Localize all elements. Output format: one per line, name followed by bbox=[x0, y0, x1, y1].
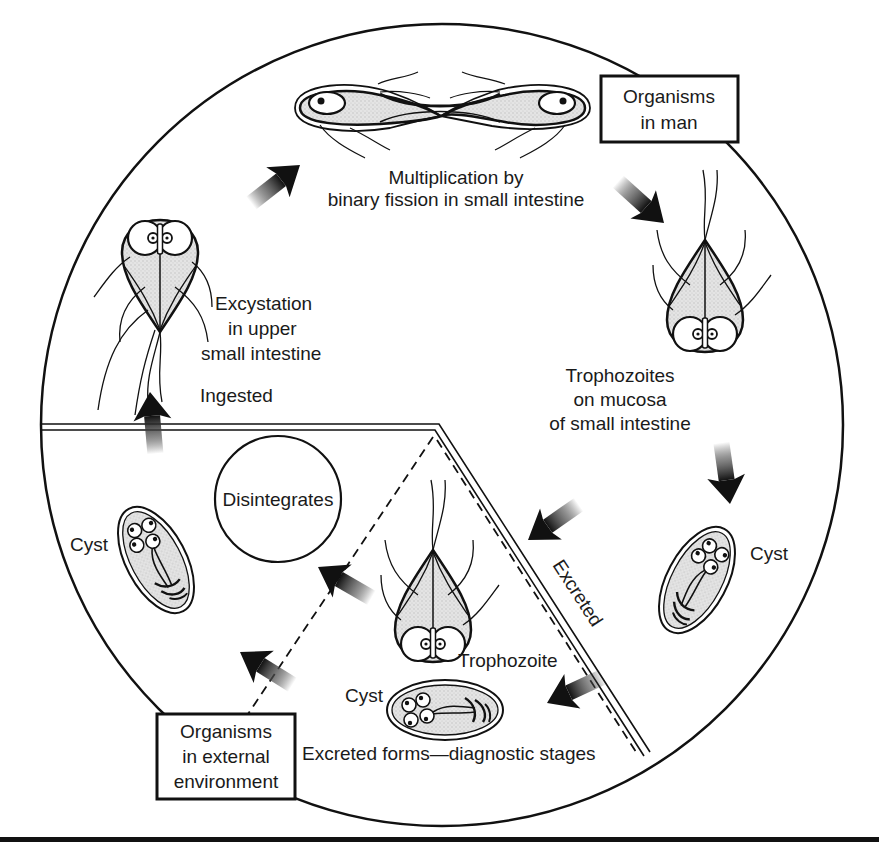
organisms-external-box: Organisms in external environment bbox=[157, 714, 295, 799]
excystation-label-line3: small intestine bbox=[201, 343, 321, 364]
excystation-trophozoite-icon bbox=[94, 220, 212, 402]
bottom-rule bbox=[0, 837, 879, 842]
trophozoites-label-line3: of small intestine bbox=[549, 413, 691, 434]
cyst-right-icon bbox=[643, 515, 750, 646]
box-external-line3: environment bbox=[174, 771, 279, 792]
ingested-label: Ingested bbox=[200, 385, 273, 406]
cyst-left-label: Cyst bbox=[70, 534, 109, 555]
cyst-right-label: Cyst bbox=[750, 543, 789, 564]
disintegrates-circle: Disintegrates bbox=[215, 436, 341, 562]
arrow-to-fission-icon bbox=[239, 150, 311, 218]
giardia-life-cycle-diagram: Organisms in man Multiplication by binar… bbox=[0, 0, 879, 853]
box-external-line1: Organisms bbox=[180, 721, 272, 742]
trophozoites-label-line1: Trophozoites bbox=[565, 365, 674, 386]
box-man-line2: in man bbox=[640, 112, 697, 133]
excystation-label-line2: in upper bbox=[228, 318, 297, 339]
trophozoites-label-line2: on mucosa bbox=[574, 389, 667, 410]
multiplication-label-line2: binary fission in small intestine bbox=[328, 189, 585, 210]
arrow-to-trophozoites-icon bbox=[605, 167, 677, 237]
excreted-trophozoite-icon bbox=[381, 480, 499, 662]
arrow-to-disintegrates-icon bbox=[309, 551, 382, 615]
excreted-forms-label: Excreted forms—diagnostic stages bbox=[302, 743, 596, 764]
cyst-bottom-icon bbox=[387, 680, 503, 740]
binary-fission-organism bbox=[295, 72, 590, 158]
box-man-line1: Organisms bbox=[623, 86, 715, 107]
arrow-excreted-troph-icon bbox=[517, 489, 590, 556]
organisms-in-man-box: Organisms in man bbox=[601, 76, 738, 142]
arrow-to-external-icon bbox=[230, 636, 303, 701]
mucosa-trophozoite-icon bbox=[653, 170, 771, 352]
excystation-label-line1: Excystation bbox=[215, 293, 312, 314]
arrow-to-cyst-right-icon bbox=[703, 440, 749, 507]
box-external-line2: in external bbox=[182, 746, 270, 767]
disintegrates-label: Disintegrates bbox=[223, 489, 334, 510]
cyst-bottom-label: Cyst bbox=[345, 685, 384, 706]
trophozoite-label: Trophozoite bbox=[458, 650, 558, 671]
multiplication-label-line1: Multiplication by bbox=[388, 167, 524, 188]
cyst-left-icon bbox=[102, 495, 209, 626]
excreted-label: Excreted bbox=[549, 556, 607, 630]
